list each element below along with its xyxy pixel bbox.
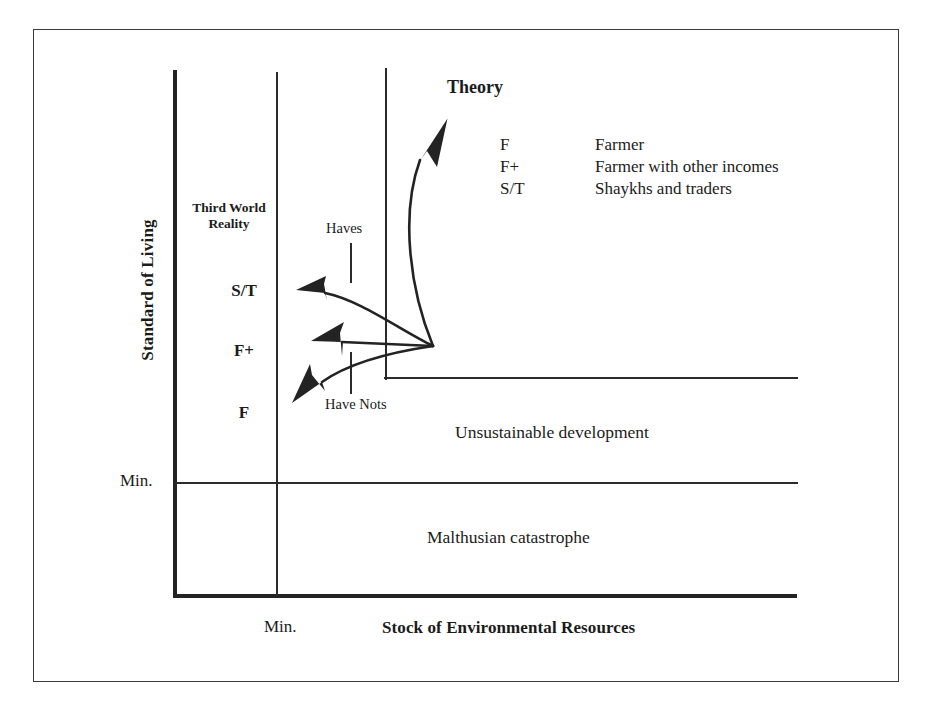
y-axis-title: Standard of Living xyxy=(138,219,158,361)
vertical-divider-inner xyxy=(385,68,387,380)
legend-desc-f-plus: Farmer with other incomes xyxy=(595,157,779,177)
legend-item-st: S/T Shaykhs and traders xyxy=(500,179,779,201)
legend-key-st: S/T xyxy=(500,179,595,199)
x-axis-min-tick-label: Min. xyxy=(264,618,297,636)
legend-item-f-plus: F+ Farmer with other incomes xyxy=(500,157,779,179)
region-label-third-world-reality: Third World Reality xyxy=(182,200,276,232)
leader-line-have-nots xyxy=(350,352,352,394)
legend-key-f: F xyxy=(500,135,595,155)
leader-line-haves xyxy=(350,243,352,283)
y-axis-min-tick-label: Min. xyxy=(120,472,153,490)
class-marker-f-plus: F+ xyxy=(194,341,294,361)
region-label-malthusian-catastrophe: Malthusian catastrophe xyxy=(427,527,590,548)
annotation-haves: Haves xyxy=(326,221,362,237)
x-axis-line xyxy=(173,594,797,598)
figure-border xyxy=(33,29,899,682)
vertical-divider-min-resources xyxy=(276,72,278,596)
legend-desc-f: Farmer xyxy=(595,135,644,155)
figure-canvas: Standard of Living Stock of Environmenta… xyxy=(0,0,932,711)
horizontal-divider-sustainable xyxy=(384,377,798,379)
annotation-theory: Theory xyxy=(447,77,503,98)
legend-item-f: F Farmer xyxy=(500,135,779,157)
legend-key-f-plus: F+ xyxy=(500,157,595,177)
region-label-unsustainable-development: Unsustainable development xyxy=(455,422,649,443)
annotation-have-nots: Have Nots xyxy=(325,397,387,413)
horizontal-divider-min-standard xyxy=(175,482,798,484)
y-axis-line xyxy=(173,70,177,598)
class-marker-f: F xyxy=(194,403,294,423)
legend: F Farmer F+ Farmer with other incomes S/… xyxy=(500,135,779,201)
class-marker-st: S/T xyxy=(194,281,294,301)
legend-desc-st: Shaykhs and traders xyxy=(595,179,732,199)
x-axis-title: Stock of Environmental Resources xyxy=(382,618,635,638)
